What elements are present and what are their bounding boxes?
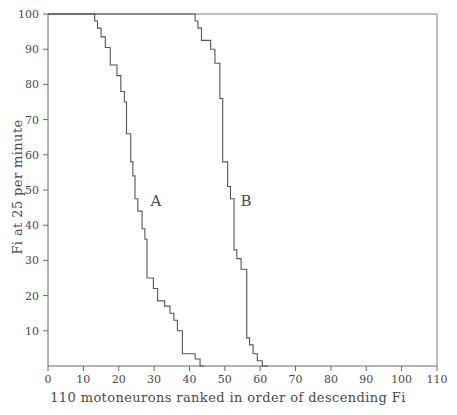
x-tick-label: 110 [427,373,448,386]
y-tick-label: 20 [25,290,39,303]
y-axis-title: Fi at 25 per minute [10,119,25,254]
x-tick-label: 80 [324,373,338,386]
x-tick-label: 20 [112,373,126,386]
y-tick-label: 70 [25,114,39,127]
chart-figure: 102030405060708090100 010203040506070809… [0,0,457,415]
y-tick-label: 90 [25,43,39,56]
x-tick-label: 10 [76,373,90,386]
x-tick-label: 0 [45,373,52,386]
curve-label-a: A [149,192,161,210]
y-tick-label: 100 [18,8,39,21]
y-tick-label: 40 [25,219,39,232]
x-tick-label: 50 [218,373,232,386]
x-tick-label: 90 [359,373,373,386]
x-tick-label: 60 [253,373,267,386]
y-tick-label: 30 [25,254,39,267]
y-tick-label: 60 [25,149,39,162]
x-tick-label: 30 [147,373,161,386]
chart-background [0,0,457,415]
curve-label-b: B [241,192,252,210]
x-tick-label: 40 [182,373,196,386]
y-tick-label: 50 [25,184,39,197]
x-tick-label: 70 [289,373,303,386]
x-tick-label: 100 [391,373,412,386]
y-tick-label: 10 [25,325,39,338]
x-axis-title: 110 motoneurons ranked in order of desce… [50,390,406,405]
step-chart: 102030405060708090100 010203040506070809… [0,0,457,415]
y-tick-label: 80 [25,78,39,91]
